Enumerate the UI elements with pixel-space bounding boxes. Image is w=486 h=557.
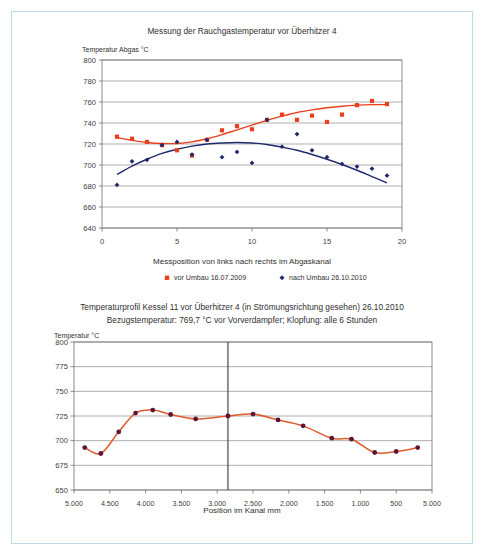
data-point-marker <box>349 437 354 442</box>
data-point-marker <box>220 155 225 160</box>
upper-chart-svg: Messung der Rauchgastemperatur vor Überh… <box>12 12 472 294</box>
data-point-marker <box>385 102 389 106</box>
x-tick-label: 1.000 <box>352 500 370 508</box>
data-point-marker <box>276 418 281 423</box>
data-point-marker <box>295 132 300 137</box>
trend-line <box>117 105 387 144</box>
y-tick-label: 760 <box>83 98 96 107</box>
y-tick-label: 725 <box>55 412 68 421</box>
y-tick-label: 800 <box>83 56 96 65</box>
data-point-marker <box>280 275 285 280</box>
y-tick-label: 700 <box>55 436 68 445</box>
data-point-marker <box>310 114 314 118</box>
x-tick-label: 5 <box>175 237 179 246</box>
y-tick-label: 700 <box>83 161 96 170</box>
data-point-marker <box>133 411 138 416</box>
upper-chart-block: Messung der Rauchgastemperatur vor Überh… <box>12 12 472 294</box>
y-tick-label: 650 <box>55 486 68 495</box>
data-point-marker <box>130 159 135 164</box>
upper-y-ticks: 800780760740720700680660640 <box>83 56 102 233</box>
data-point-marker <box>250 161 255 166</box>
data-point-marker <box>251 412 256 417</box>
upper-x-ticks: 05101520 <box>100 228 406 246</box>
data-point-marker <box>145 140 149 144</box>
y-tick-label: 675 <box>55 461 68 470</box>
x-tick-label: 4.500 <box>101 500 119 508</box>
lower-chart-title-line2: Bezugstemperatur: 769,7 °C vor Vorverdam… <box>107 315 378 325</box>
data-point-marker <box>235 150 240 155</box>
data-point-marker <box>235 124 239 128</box>
y-tick-label: 750 <box>55 387 68 396</box>
x-tick-label: 15 <box>323 237 331 246</box>
legend-item: nach Umbau 26.10.2010 <box>280 274 367 282</box>
lower-x-axis-title: Position im Kanal mm <box>203 506 281 515</box>
screenshot-page: Messung der Rauchgastemperatur vor Überh… <box>0 0 486 557</box>
y-tick-label: 775 <box>55 362 68 371</box>
data-point-marker <box>250 127 254 131</box>
data-point-marker <box>394 449 399 454</box>
x-tick-label: 500 <box>390 500 402 508</box>
data-point-marker <box>280 144 285 149</box>
data-point-marker <box>175 148 179 152</box>
data-point-marker <box>310 148 315 153</box>
data-point-marker <box>372 450 377 455</box>
data-point-marker <box>340 113 344 117</box>
document-frame: Messung der Rauchgastemperatur vor Überh… <box>11 11 473 544</box>
y-tick-label: 660 <box>83 203 96 212</box>
lower-y-ticks: 800775750725700675650 <box>55 338 74 495</box>
y-tick-label: 800 <box>55 338 68 347</box>
data-point-marker <box>130 137 134 141</box>
legend-label: nach Umbau 26.10.2010 <box>289 274 367 282</box>
upper-y-axis-caption: Temperatur Abgas °C <box>82 46 149 54</box>
legend-label: vor Umbau 16.07.2009 <box>174 274 246 282</box>
data-point-marker <box>150 408 155 413</box>
y-tick-label: 780 <box>83 77 96 86</box>
data-point-marker <box>280 113 284 117</box>
x-tick-label: 0 <box>100 237 104 246</box>
data-point-marker <box>115 135 119 139</box>
data-point-marker <box>370 99 374 103</box>
y-tick-label: 680 <box>83 182 96 191</box>
x-tick-label: 10 <box>248 237 256 246</box>
lower-chart-block: Temperaturprofil Kessel 11 vor Überhitze… <box>12 294 472 543</box>
data-point-marker <box>301 423 306 428</box>
x-tick-label: 20 <box>398 237 406 246</box>
data-point-marker <box>385 173 390 178</box>
y-tick-label: 740 <box>83 119 96 128</box>
lower-chart-title-line1: Temperaturprofil Kessel 11 vor Überhitze… <box>80 302 404 312</box>
y-tick-label: 720 <box>83 140 96 149</box>
data-point-marker <box>415 445 420 450</box>
x-tick-label: 1.500 <box>316 500 334 508</box>
y-tick-label: 640 <box>83 224 96 233</box>
x-tick-label: 5.000 <box>65 500 83 508</box>
x-tick-label: 3.500 <box>173 500 191 508</box>
data-point-marker <box>355 103 359 107</box>
data-point-marker <box>98 451 103 456</box>
data-point-marker <box>115 183 120 188</box>
data-point-marker <box>165 276 169 280</box>
upper-chart-legend: vor Umbau 16.07.2009nach Umbau 26.10.201… <box>165 274 367 282</box>
data-point-marker <box>370 166 375 171</box>
data-point-marker <box>193 417 198 422</box>
data-point-marker <box>82 445 87 450</box>
lower-series-line <box>85 410 418 454</box>
x-tick-label: 4.000 <box>137 500 155 508</box>
data-point-marker <box>325 120 329 124</box>
upper-chart-title: Messung der Rauchgastemperatur vor Überh… <box>147 26 336 36</box>
legend-item: vor Umbau 16.07.2009 <box>165 274 246 282</box>
data-point-marker <box>168 412 173 417</box>
lower-chart-svg: Temperaturprofil Kessel 11 vor Überhitze… <box>12 294 472 543</box>
data-point-marker <box>220 128 224 132</box>
data-point-marker <box>116 429 121 434</box>
x-tick-label: 2.000 <box>280 500 298 508</box>
data-point-marker <box>295 118 299 122</box>
x-tick-label: 5.000 <box>423 500 441 508</box>
upper-x-axis-title: Messposition von links nach rechts im Ab… <box>153 257 331 266</box>
data-point-marker <box>226 414 231 419</box>
data-point-marker <box>329 436 334 441</box>
